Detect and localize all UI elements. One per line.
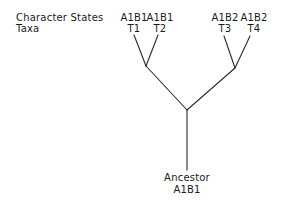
branch-t1: [134, 35, 146, 66]
ancestor-state: A1B1: [173, 184, 200, 195]
branch-left-clade: [146, 66, 187, 110]
branch-t3: [224, 36, 235, 68]
branch-t2: [146, 35, 158, 66]
branch-right-clade: [187, 68, 235, 110]
tree-branches: [0, 0, 287, 203]
ancestor-label: Ancestor: [164, 172, 210, 183]
branch-t4: [235, 36, 250, 68]
